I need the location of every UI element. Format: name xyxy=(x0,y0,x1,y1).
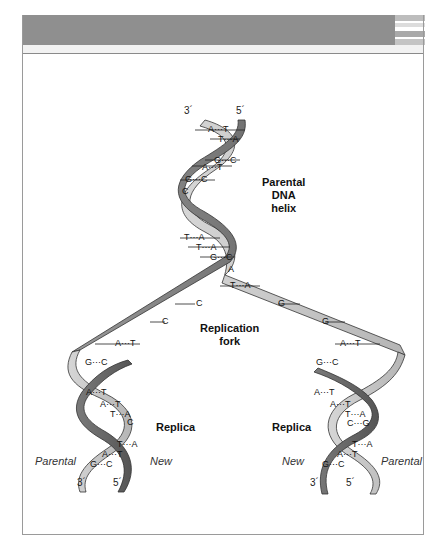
bp-label: C xyxy=(196,298,203,308)
bottom-right-5prime-label: 5´ xyxy=(346,477,355,488)
bp-label: G···C xyxy=(210,252,233,262)
right-new-strand-label: New xyxy=(282,455,304,467)
bp-label: T···A xyxy=(352,439,373,449)
bp-label: G···C xyxy=(185,174,208,184)
bp-label: A xyxy=(228,264,234,274)
bp-label: C xyxy=(162,316,169,326)
bottom-left-3prime-label: 3´ xyxy=(77,477,86,488)
bp-label: A···T xyxy=(314,387,335,397)
bp-label: G xyxy=(278,298,285,308)
bp-label: A···T xyxy=(330,399,351,409)
right-parental-strand-label: Parental xyxy=(381,455,422,467)
bp-label: A···T xyxy=(115,338,136,348)
bp-label: C xyxy=(182,186,189,196)
bp-label: T···A xyxy=(117,439,138,449)
replication-fork-label: Replication fork xyxy=(200,322,259,348)
replica-right-label: Replica xyxy=(272,421,311,434)
bp-label: T···A xyxy=(230,280,251,290)
replica-left-label: Replica xyxy=(156,421,195,434)
bp-label: A···T xyxy=(208,124,229,134)
top-5prime-label: 5´ xyxy=(236,105,245,116)
bp-label: G···C xyxy=(85,357,108,367)
bp-label: G···C xyxy=(316,357,339,367)
left-replica-parental-strand xyxy=(68,350,132,492)
bottom-left-5prime-label: 5´ xyxy=(113,477,122,488)
left-parental-strand-label: Parental xyxy=(35,455,76,467)
bp-label: A···T xyxy=(102,449,123,459)
bp-label: G···C xyxy=(322,459,345,469)
bp-label: A···T xyxy=(100,399,121,409)
bp-label: G···C xyxy=(90,459,113,469)
bottom-right-3prime-label: 3´ xyxy=(310,477,319,488)
bp-label: A···T xyxy=(86,387,107,397)
bp-label: C···G xyxy=(347,418,370,428)
top-3prime-label: 3´ xyxy=(184,105,193,116)
bp-label: A···T xyxy=(340,338,361,348)
bp-label: G xyxy=(322,316,329,326)
parental-dna-helix-label: Parental DNA helix xyxy=(262,176,305,215)
bp-label: C xyxy=(127,417,134,427)
bp-label: A···T xyxy=(337,449,358,459)
bp-label: T···A xyxy=(218,134,239,144)
bp-label: T···A xyxy=(196,242,217,252)
bp-label: A···T xyxy=(202,162,223,172)
left-new-strand-label: New xyxy=(150,455,172,467)
bp-label: T···A xyxy=(184,232,205,242)
